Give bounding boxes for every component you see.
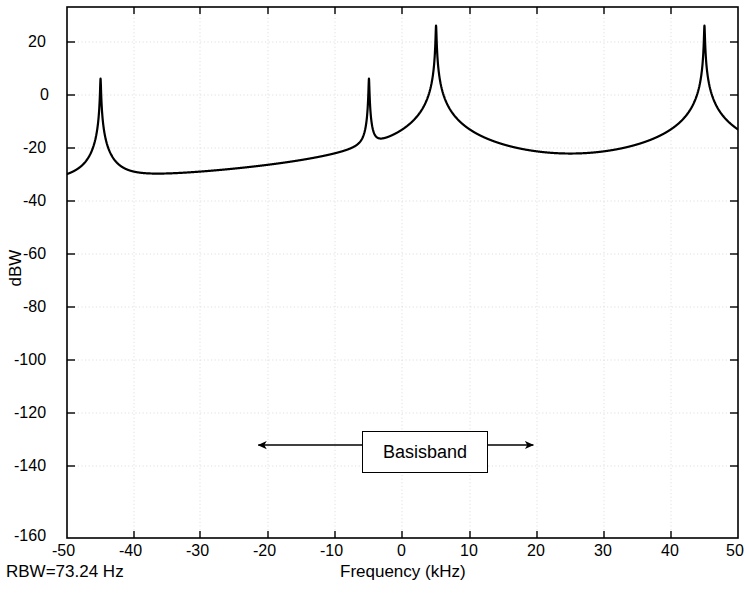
x-tick-label: -10 [320,542,343,560]
x-tick-label: -20 [253,542,276,560]
x-tick-label: 30 [594,542,612,560]
x-tick-label: -30 [186,542,209,560]
basisband-annotation-box: Basisband [362,431,488,473]
rbw-footnote: RBW=73.24 Hz [6,562,124,582]
y-tick-label: -20 [23,139,46,157]
y-tick-label: -40 [23,192,46,210]
y-tick-label: 0 [40,86,49,104]
spectrum-figure: 20 0 -20 -40 -60 -80 -100 -120 -140 -160… [0,0,749,593]
y-tick-label: -60 [23,245,46,263]
y-tick-label: -120 [14,404,46,422]
x-axis-label: Frequency (kHz) [340,562,466,582]
y-tick-label: -80 [23,298,46,316]
y-axis-label: dBW [6,238,26,298]
x-tick-label: 50 [726,542,744,560]
x-tick-label: 20 [527,542,545,560]
x-tick-label: -40 [119,542,142,560]
basisband-annotation-label: Basisband [363,432,487,472]
y-tick-label: -160 [14,527,46,545]
x-tick-label: 10 [460,542,478,560]
spectrum-plot-canvas [0,0,749,593]
y-tick-label: 20 [28,33,46,51]
y-tick-label: -100 [14,351,46,369]
y-tick-label: -140 [14,457,46,475]
x-tick-label: 0 [397,542,406,560]
x-tick-label: 40 [661,542,679,560]
x-tick-label: -50 [52,542,75,560]
